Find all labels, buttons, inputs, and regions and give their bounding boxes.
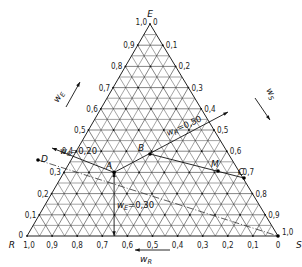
tick-label-bottom: 0,7 [97, 241, 108, 250]
grid-line-wr [58, 183, 90, 236]
grid-dot [137, 87, 139, 89]
tick-label-right: 1,0 [282, 228, 294, 237]
grid-dot [112, 87, 114, 89]
tick-label-right: 0,5 [217, 126, 228, 135]
tick-label-right: 0,7 [243, 168, 254, 177]
tick-label-left: 0,8 [111, 62, 123, 71]
grid-line-ws [90, 77, 182, 236]
grid-dot [139, 214, 141, 216]
grid-dot [150, 108, 152, 110]
grid-dot [51, 193, 53, 195]
we-axis-label: wE [51, 88, 68, 105]
grid-dot [64, 214, 66, 216]
tick-label-bottom: 0,9 [46, 241, 58, 250]
grid-dot [189, 214, 191, 216]
tick-label-bottom: 0,2 [222, 241, 233, 250]
point-label-a: A [105, 161, 112, 171]
tick-label-right: 0,2 [179, 62, 190, 71]
grid-dot [63, 172, 65, 174]
vertex-label-e: E [147, 9, 153, 19]
grid-dot [226, 150, 228, 152]
grid-line-ws [165, 141, 220, 236]
tick-label-left: 0 [18, 231, 23, 240]
grid-line-wr [33, 225, 39, 236]
grid-dot [177, 235, 179, 237]
grid-dot [175, 66, 177, 68]
grid-dot [138, 172, 140, 174]
grid-dot [138, 129, 140, 131]
tick-label-left: 0,3 [49, 168, 60, 177]
grid-dot [126, 193, 128, 195]
grid-dot [51, 235, 53, 237]
point-m [216, 169, 220, 173]
grid-dot [176, 150, 178, 152]
tick-label-right: 0 [153, 18, 158, 27]
grid-dot [137, 44, 139, 46]
tick-label-bottom: 0,4 [172, 241, 184, 250]
grid-dot [151, 193, 153, 195]
tick-label-bottom: 0,1 [247, 241, 258, 250]
grid-dot [152, 235, 154, 237]
vertex-label-r: R [9, 240, 15, 250]
grid-dot [202, 235, 204, 237]
tick-label-right: 0,9 [268, 211, 280, 220]
tick-label-bottom: 0 [276, 241, 281, 250]
grid-dot [188, 129, 190, 131]
tick-label-left: 0,6 [86, 105, 98, 114]
grid-dot [252, 193, 254, 195]
tick-label-right: 0,4 [204, 105, 216, 114]
point-b [148, 152, 152, 156]
tick-label-left: 1,0 [136, 18, 148, 27]
grid-dot [227, 235, 229, 237]
tick-label-right: 0,6 [230, 147, 242, 156]
point-label-d: D [41, 154, 48, 164]
grid-dot [101, 193, 103, 195]
grid-dot [163, 172, 165, 174]
grid-dot [38, 214, 40, 216]
grid-dot [88, 129, 90, 131]
grid-line-ws [115, 98, 195, 236]
tick-label-left: 0,9 [123, 41, 135, 50]
grid-line-wr [119, 77, 215, 236]
point-s [276, 234, 280, 238]
grid-dot [76, 193, 78, 195]
point-label-m: M [211, 159, 219, 169]
tick-label-bottom: 1,0 [23, 241, 35, 250]
grid-dot [100, 108, 102, 110]
tick-label-bottom: 0,5 [147, 241, 158, 250]
grid-dot [162, 87, 164, 89]
point-label-c: C [238, 167, 245, 177]
grid-dot [188, 87, 190, 89]
grid-line-ws [265, 225, 271, 236]
grid-dot [252, 235, 254, 237]
grid-dot [239, 214, 241, 216]
point-d [36, 158, 40, 162]
grid-dot [214, 214, 216, 216]
grid-dot [162, 44, 164, 46]
tick-label-bottom: 0,8 [71, 241, 83, 250]
grid-dot [164, 214, 166, 216]
tick-label-left: 0,2 [37, 190, 48, 199]
grid-dot [125, 66, 127, 68]
grid-line-wr [144, 35, 266, 236]
point-a [112, 171, 116, 175]
grid-dot [226, 193, 228, 195]
grid-line-wr [95, 119, 165, 236]
tick-label-bottom: 0,3 [197, 241, 208, 250]
grid-dot [201, 193, 203, 195]
grid-line-ws [190, 162, 233, 236]
grid-dot [125, 108, 127, 110]
grid-line-wr [70, 162, 115, 236]
grid-dot [200, 108, 202, 110]
grid-dot [100, 150, 102, 152]
wr-construction-arrow-head [223, 112, 228, 116]
ternary-diagram: 1,00,10,10,90,20,20,80,30,30,70,40,40,60… [0, 0, 302, 267]
ws-axis-arrow-head [266, 115, 270, 120]
grid-dot [149, 23, 151, 25]
grid-dot [201, 150, 203, 152]
we-annotation: wE=0,30 [117, 200, 154, 212]
grid-dot [26, 235, 28, 237]
tick-label-left: 0,7 [99, 84, 110, 93]
ws-axis-label: wS [263, 86, 279, 102]
line-b-c [150, 154, 244, 178]
